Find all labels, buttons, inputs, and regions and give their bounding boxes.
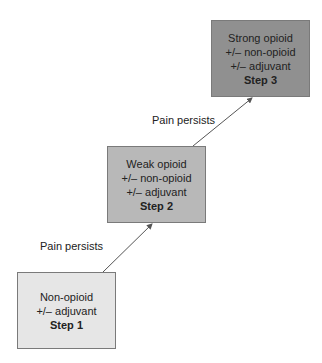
step-2-line-3: +/– adjuvant [126,185,186,199]
step-3-box: Strong opioid +/– non-opioid +/– adjuvan… [211,20,310,97]
step-1-line-2: +/– adjuvant [36,304,96,318]
step-1-label: Step 1 [50,318,83,332]
step-3-line-3: +/– adjuvant [230,59,290,73]
step-2-line-2: +/– non-opioid [121,171,191,185]
arrow-label-2: Pain persists [152,114,215,126]
step-2-line-1: Weak opioid [126,157,186,171]
step-1-line-1: Non-opioid [40,290,93,304]
arrow-label-1: Pain persists [40,240,103,252]
step-1-box: Non-opioid +/– adjuvant Step 1 [17,272,116,349]
step-3-line-1: Strong opioid [228,31,293,45]
arrow-step1-to-step2 [103,224,152,272]
step-2-box: Weak opioid +/– non-opioid +/– adjuvant … [107,146,206,223]
step-3-line-2: +/– non-opioid [225,45,295,59]
step-2-label: Step 2 [140,199,173,213]
step-3-label: Step 3 [244,73,277,87]
